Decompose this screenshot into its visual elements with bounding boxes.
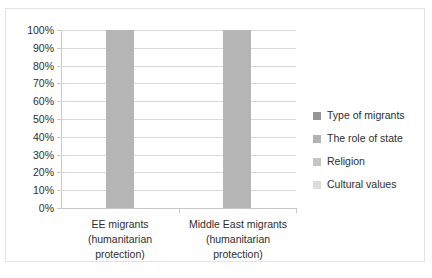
y-axis-tick-label: 60%	[10, 96, 54, 107]
y-axis-tick-mark	[57, 83, 61, 84]
x-axis-category-label-line: (humanitarian	[179, 232, 297, 247]
legend-item[interactable]: Religion	[313, 150, 425, 173]
bar	[223, 30, 251, 208]
y-axis-tick-label: 30%	[10, 150, 54, 161]
legend-item[interactable]: Cultural values	[313, 173, 425, 196]
gridline	[61, 155, 296, 156]
y-axis-labels: 100%90%80%70%60%50%40%30%20%10%0%	[6, 30, 54, 208]
gridline	[61, 172, 296, 173]
x-axis-category-label-line: Middle East migrants	[179, 217, 297, 232]
y-axis-tick-mark	[57, 137, 61, 138]
gridline	[61, 190, 296, 191]
x-axis-tick-mark	[179, 208, 180, 213]
legend-swatch-icon	[313, 135, 321, 143]
plot-area	[61, 30, 296, 208]
y-axis-tick-label: 10%	[10, 185, 54, 196]
x-axis-tick-mark	[296, 208, 297, 213]
legend-item-label: Cultural values	[327, 179, 396, 190]
legend-item-label: The role of state	[327, 133, 403, 144]
legend-item[interactable]: The role of state	[313, 127, 425, 150]
legend-item-label: Type of migrants	[327, 110, 405, 121]
gridline	[61, 137, 296, 138]
x-axis-category-label-line: EE migrants	[61, 217, 179, 232]
chart-frame: 100%90%80%70%60%50%40%30%20%10%0% EE mig…	[5, 8, 425, 262]
x-axis-category-label: EE migrants(humanitarianprotection)	[61, 217, 179, 263]
x-axis-labels: EE migrants(humanitarianprotection)Middl…	[61, 217, 296, 267]
legend-swatch-icon	[313, 181, 321, 189]
y-axis-tick-mark	[57, 30, 61, 31]
bar	[106, 30, 134, 208]
y-axis-tick-mark	[57, 119, 61, 120]
legend-item-label: Religion	[327, 156, 365, 167]
x-axis-category-label: Middle East migrants(humanitarianprotect…	[179, 217, 297, 263]
gridline	[61, 119, 296, 120]
y-axis-tick-mark	[57, 172, 61, 173]
x-axis-category-label-line: protection)	[179, 247, 297, 262]
y-axis-tick-label: 70%	[10, 78, 54, 89]
gridline	[61, 30, 296, 31]
x-axis-category-label-line: protection)	[61, 247, 179, 262]
y-axis-tick-label: 20%	[10, 167, 54, 178]
y-axis-tick-mark	[57, 208, 61, 209]
gridline	[61, 48, 296, 49]
gridline	[61, 83, 296, 84]
y-axis-tick-label: 0%	[10, 203, 54, 214]
chart-legend: Type of migrantsThe role of stateReligio…	[313, 104, 425, 196]
y-axis-tick-mark	[57, 66, 61, 67]
legend-item[interactable]: Type of migrants	[313, 104, 425, 127]
x-axis-category-label-line: (humanitarian	[61, 232, 179, 247]
y-axis-tick-label: 80%	[10, 61, 54, 72]
gridline	[61, 66, 296, 67]
y-axis-tick-label: 50%	[10, 114, 54, 125]
gridline	[61, 101, 296, 102]
y-axis-tick-label: 40%	[10, 132, 54, 143]
legend-swatch-icon	[313, 112, 321, 120]
y-axis-tick-label: 90%	[10, 43, 54, 54]
y-axis-tick-mark	[57, 190, 61, 191]
y-axis-tick-mark	[57, 48, 61, 49]
legend-swatch-icon	[313, 158, 321, 166]
y-axis-tick-mark	[57, 101, 61, 102]
y-axis-tick-label: 100%	[10, 25, 54, 36]
y-axis-tick-mark	[57, 155, 61, 156]
